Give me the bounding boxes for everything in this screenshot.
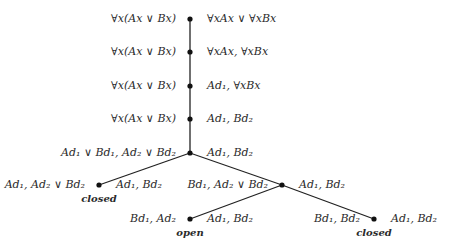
node-left-label: ∀x(Ax ∨ Bx) bbox=[111, 46, 176, 58]
node-right-label: ∀xAx ∨ ∀xBx bbox=[207, 13, 276, 25]
node-right-label: Ad₁, Bd₂ bbox=[391, 213, 437, 225]
tree-node bbox=[187, 216, 192, 221]
node-left-label: ∀x(Ax ∨ Bx) bbox=[111, 13, 176, 25]
tree-node bbox=[187, 49, 192, 54]
node-left-label: ∀x(Ax ∨ Bx) bbox=[111, 80, 176, 92]
node-right-label: Ad₁, Bd₂ bbox=[116, 179, 162, 191]
node-right-label: Ad₁, ∀xBx bbox=[207, 80, 261, 92]
node-left-label: ∀x(Ax ∨ Bx) bbox=[111, 113, 176, 125]
node-right-label: Ad₁, Bd₂ bbox=[299, 179, 345, 191]
branch-status-closed: closed bbox=[81, 193, 117, 204]
node-left-label: Ad₁ ∨ Bd₁, Ad₂ ∨ Bd₂ bbox=[61, 147, 176, 159]
branch-status-open: open bbox=[176, 227, 203, 238]
node-right-label: Ad₁, Bd₂ bbox=[207, 113, 253, 125]
node-left-label: Ad₁, Ad₂ ∨ Bd₂ bbox=[5, 179, 85, 191]
tree-node bbox=[279, 182, 284, 187]
tree-node bbox=[187, 150, 192, 155]
node-right-label: Ad₁, Bd₂ bbox=[207, 213, 253, 225]
tree-node bbox=[187, 116, 192, 121]
node-left-label: Bd₁, Ad₂ ∨ Bd₂ bbox=[187, 179, 268, 191]
tableau-diagram: ∀x(Ax ∨ Bx)∀xAx ∨ ∀xBx∀x(Ax ∨ Bx)∀xAx, ∀… bbox=[0, 0, 450, 246]
node-right-label: ∀xAx, ∀xBx bbox=[207, 46, 268, 58]
tree-node bbox=[371, 216, 376, 221]
node-left-label: Bd₁, Bd₂ bbox=[314, 213, 360, 225]
node-right-label: Ad₁, Bd₂ bbox=[207, 147, 253, 159]
tree-node bbox=[187, 83, 192, 88]
tree-node bbox=[96, 182, 101, 187]
branch-status-closed: closed bbox=[356, 227, 392, 238]
node-left-label: Bd₁, Ad₂ bbox=[130, 213, 176, 225]
tree-node bbox=[187, 16, 192, 21]
